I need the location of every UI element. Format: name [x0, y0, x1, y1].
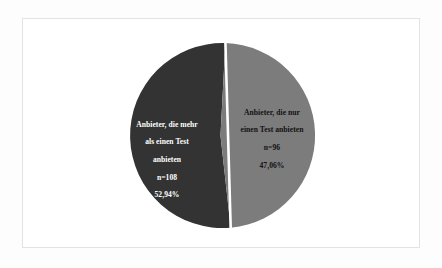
pie-slice-mehr-als-einen-test[interactable] — [130, 43, 231, 228]
figure-canvas: Anbieter, die mehr als einen Test anbiet… — [0, 0, 442, 268]
pie-slice-nur-einen-test[interactable] — [221, 43, 316, 228]
pie-chart — [0, 0, 442, 268]
pie-svg — [0, 0, 442, 268]
